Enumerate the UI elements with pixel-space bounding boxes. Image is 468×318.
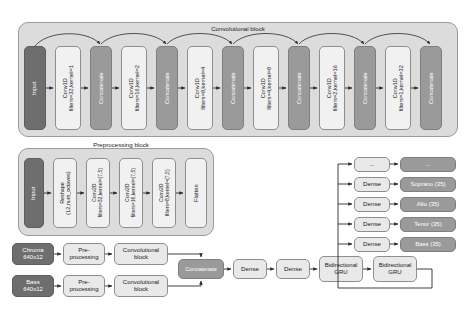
concatenate-1-label: Concatenate bbox=[98, 72, 104, 104]
concatenate-3-label: Concatenate bbox=[230, 72, 236, 104]
trunk-dense-2: Dense bbox=[276, 259, 310, 279]
concatenate-6: Concatenate bbox=[420, 46, 442, 130]
stream-bass-conv: Convolutional block bbox=[114, 275, 168, 297]
conv1d-3: Conv1D filters=8,kernel=4 bbox=[187, 46, 213, 130]
conv1d-2-label: Conv1D filters=16,kernel=2 bbox=[128, 65, 141, 111]
conv2d-3: Conv2D filters=8,kernel=(7,5) bbox=[152, 158, 176, 228]
concatenate-1: Concatenate bbox=[90, 46, 112, 130]
stream-bass-input: Bass 640x12 bbox=[12, 275, 54, 297]
head-dense-0: ... bbox=[354, 157, 390, 172]
dense-to-output-arrows bbox=[390, 164, 398, 244]
head-output-tenor: Tenor (35) bbox=[400, 217, 456, 232]
stream-bass-preprocessing: Pre- processing bbox=[63, 275, 105, 297]
conv2d-3-label: Conv2D filters=8,kernel=(7,5) bbox=[158, 170, 169, 217]
conv2d-1-label: Conv2D filters=32,kernel=(7,5) bbox=[92, 168, 103, 218]
conv1d-3-label: Conv1D filters=8,kernel=4 bbox=[194, 67, 207, 110]
preproc-reshape-label: Reshape (12,num_octaves) bbox=[59, 171, 71, 214]
preproc-input: Input bbox=[24, 158, 44, 228]
conv1d-1: Conv1D filters=32,kernel=1 bbox=[55, 46, 81, 130]
concatenate-6-label: Concatenate bbox=[428, 72, 434, 104]
conv1d-6-label: Conv1D filters=1,kernel=32 bbox=[392, 65, 405, 111]
preproc-flatten: Flatten bbox=[185, 158, 207, 228]
diagram-canvas: Convolutional block Input Conv1D filters… bbox=[0, 0, 468, 318]
trunk-dense-1: Dense bbox=[233, 259, 267, 279]
head-dense-bass: Dense bbox=[354, 237, 390, 252]
conv-block-input-label: Input bbox=[32, 81, 39, 94]
bus-to-dense-arrows bbox=[338, 164, 352, 244]
trunk-gru-2: Bidirectional GRU bbox=[373, 256, 417, 282]
conv-block-input: Input bbox=[24, 46, 46, 130]
head-output-bass: Bass (35) bbox=[400, 237, 456, 252]
preproc-flatten-label: Flatten bbox=[193, 184, 199, 202]
head-output-0: ... bbox=[400, 157, 456, 172]
head-dense-alto: Dense bbox=[354, 197, 390, 212]
concatenate-4: Concatenate bbox=[288, 46, 310, 130]
conv1d-1-label: Conv1D filters=32,kernel=1 bbox=[62, 65, 75, 111]
concatenate-5: Concatenate bbox=[354, 46, 376, 130]
head-dense-soprano: Dense bbox=[354, 177, 390, 192]
stream-chroma-preprocessing: Pre- processing bbox=[63, 243, 105, 265]
concatenate-2-label: Concatenate bbox=[164, 72, 170, 104]
stream-chroma-input: Chroma 640x12 bbox=[12, 243, 54, 265]
preprocessing-block-title: Preprocessing block bbox=[66, 141, 176, 148]
trunk-concatenate: Concatenate bbox=[178, 259, 224, 279]
conv2d-2: Conv2D filters=16,kernel=(7,5) bbox=[119, 158, 143, 228]
head-dense-tenor: Dense bbox=[354, 217, 390, 232]
preproc-reshape: Reshape (12,num_octaves) bbox=[53, 158, 77, 228]
trunk-gru-1: Bidirectional GRU bbox=[319, 256, 363, 282]
conv1d-6: Conv1D filters=1,kernel=32 bbox=[385, 46, 411, 130]
concatenate-4-label: Concatenate bbox=[296, 72, 302, 104]
conv1d-5-label: Conv1D filters=2,kernel=16 bbox=[326, 65, 339, 111]
conv2d-1: Conv2D filters=32,kernel=(7,5) bbox=[86, 158, 110, 228]
convolutional-block-title: Convolutional block bbox=[168, 25, 308, 32]
conv2d-2-label: Conv2D filters=16,kernel=(7,5) bbox=[125, 168, 136, 218]
head-output-alto: Alto (35) bbox=[400, 197, 456, 212]
stream-chroma-conv: Convolutional block bbox=[114, 243, 168, 265]
conv1d-4-label: Conv1D filters=4,kernel=8 bbox=[260, 67, 273, 110]
concatenate-3: Concatenate bbox=[222, 46, 244, 130]
conv1d-5: Conv1D filters=2,kernel=16 bbox=[319, 46, 345, 130]
concatenate-2: Concatenate bbox=[156, 46, 178, 130]
conv1d-4: Conv1D filters=4,kernel=8 bbox=[253, 46, 279, 130]
conv1d-2: Conv1D filters=16,kernel=2 bbox=[121, 46, 147, 130]
head-output-soprano: Soprano (35) bbox=[400, 177, 456, 192]
preproc-input-label: Input bbox=[31, 186, 38, 199]
concatenate-5-label: Concatenate bbox=[362, 72, 368, 104]
